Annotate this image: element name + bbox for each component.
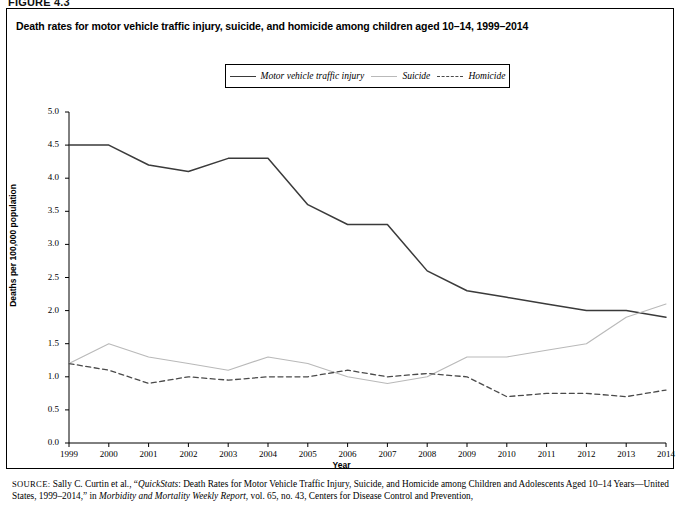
x-axis-title: Year [0,460,683,470]
y-tick-label: 2.0 [29,305,59,315]
y-tick-label: 0.5 [29,404,59,414]
chart-legend: Motor vehicle traffic injury Suicide Hom… [225,64,510,88]
x-tick-label: 2011 [527,449,567,459]
legend-swatch-line-icon [371,73,397,80]
legend-item-suicide: Suicide [371,71,430,81]
x-tick-label: 1999 [49,449,89,459]
source-text-a: Sally C. Curtin et al., “ [50,479,138,489]
x-tick-label: 2013 [606,449,646,459]
x-tick-label: 2000 [89,449,129,459]
source-prefix: SOURCE: [12,479,50,489]
source-text-c: , vol. 65, no. 43, Centers for Disease C… [246,491,473,501]
figure-number: FIGURE 4.3 [8,0,70,8]
y-tick-label: 2.5 [29,272,59,282]
x-tick-label: 2005 [288,449,328,459]
source-italic-quickstats: QuickStats [138,479,178,489]
figure-title: Death rates for motor vehicle traffic in… [16,20,656,33]
x-tick-label: 2012 [566,449,606,459]
y-tick-label: 1.0 [29,371,59,381]
x-tick-label: 2004 [248,449,288,459]
x-tick-label: 2007 [367,449,407,459]
legend-swatch-dashed-line-icon [437,73,463,80]
legend-item-motor-vehicle: Motor vehicle traffic injury [230,71,365,81]
x-tick-label: 2009 [447,449,487,459]
x-tick-label: 2014 [646,449,683,459]
y-tick-label: 4.5 [29,139,59,149]
x-tick-label: 2006 [328,449,368,459]
x-tick-label: 2002 [168,449,208,459]
legend-item-homicide: Homicide [437,71,505,81]
y-tick-label: 3.0 [29,238,59,248]
y-tick-label: 4.0 [29,172,59,182]
source-italic-journal: Morbidity and Mortality Weekly Report [99,491,246,501]
x-tick-label: 2010 [487,449,527,459]
legend-label-suicide: Suicide [402,71,430,81]
legend-label-homicide: Homicide [468,71,505,81]
x-tick-label: 2003 [208,449,248,459]
legend-swatch-line-icon [230,73,256,80]
y-tick-label: 1.5 [29,338,59,348]
x-tick-label: 2008 [407,449,447,459]
source-note: SOURCE: Sally C. Curtin et al., “QuickSt… [12,478,672,502]
y-tick-label: 3.5 [29,205,59,215]
x-tick-label: 2001 [129,449,169,459]
y-axis-title: Deaths per 100,000 population [8,184,18,307]
legend-label-motor-vehicle: Motor vehicle traffic injury [261,71,365,81]
y-tick-label: 5.0 [29,106,59,116]
y-tick-label: 0.0 [29,437,59,447]
